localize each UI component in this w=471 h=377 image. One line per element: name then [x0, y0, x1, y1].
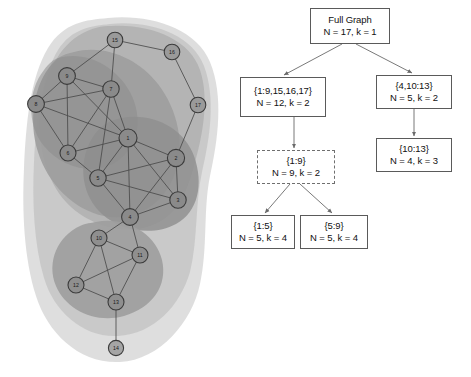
graph-node-circle [91, 230, 107, 246]
network-graph-panel: 1234567891011121314151617 [0, 0, 235, 377]
community-blobs [23, 17, 218, 362]
tree-edge-root-to-right-1 [356, 44, 412, 73]
graph-node[interactable]: 7 [103, 81, 119, 97]
graph-node[interactable]: 10 [91, 230, 107, 246]
graph-node-circle [132, 247, 148, 263]
tree-node-set-label: {1:5} [253, 220, 272, 232]
tree-node-set-label: {4,10:13} [395, 80, 432, 92]
graph-node-circle [107, 32, 123, 48]
tree-node-set-label: {1:9,15,16,17} [254, 85, 312, 97]
decomposition-tree-panel: Full GraphN = 17, k = 1{1:9,15,16,17}N =… [232, 0, 471, 377]
graph-node[interactable]: 14 [108, 340, 123, 355]
tree-node-left-1[interactable]: {1:9,15,16,17}N = 12, k = 2 [240, 77, 326, 117]
graph-node-circle [190, 97, 206, 113]
graph-node[interactable]: 15 [107, 32, 123, 48]
tree-node-left-2[interactable]: {1:9}N = 9, k = 2 [257, 150, 335, 184]
tree-edge-left-2-to-leaf-right [300, 184, 332, 213]
tree-node-set-label: {1:9} [286, 155, 305, 167]
tree-node-stats-label: N = 5, k = 4 [310, 232, 358, 244]
graph-node[interactable]: 8 [28, 96, 45, 113]
tree-node-stats-label: N = 12, k = 2 [256, 97, 309, 109]
tree-node-stats-label: N = 5, k = 2 [390, 92, 438, 104]
graph-node[interactable]: 13 [108, 294, 124, 310]
tree-node-stats-label: N = 5, k = 4 [239, 232, 287, 244]
tree-node-set-label: Full Graph [328, 14, 371, 26]
graph-node-circle [119, 129, 137, 147]
tree-node-set-label: {10:13} [399, 143, 428, 155]
graph-node[interactable]: 2 [167, 149, 184, 166]
figure-root: 1234567891011121314151617 Full GraphN = … [0, 0, 471, 377]
tree-edge-root-to-left-1 [284, 44, 342, 75]
tree-edge-left-2-to-leaf-left [265, 184, 290, 213]
graph-node-circle [103, 81, 119, 97]
tree-node-right-1[interactable]: {4,10:13}N = 5, k = 2 [376, 75, 452, 109]
graph-node-circle [108, 294, 124, 310]
graph-node[interactable]: 6 [60, 145, 76, 161]
tree-node-set-label: {5:9} [324, 220, 343, 232]
tree-node-leaf-right[interactable]: {5:9}N = 5, k = 4 [300, 215, 368, 249]
graph-node-circle [59, 68, 76, 85]
graph-node-circle [90, 170, 106, 186]
graph-node-circle [28, 96, 45, 113]
graph-node-circle [170, 192, 186, 208]
graph-node[interactable]: 16 [164, 44, 180, 60]
graph-node[interactable]: 9 [59, 68, 76, 85]
graph-node[interactable]: 17 [190, 97, 206, 113]
tree-node-stats-label: N = 9, k = 2 [272, 167, 320, 179]
graph-node-circle [122, 209, 139, 226]
tree-edges [232, 0, 471, 377]
graph-node-circle [108, 340, 123, 355]
tree-node-stats-label: N = 4, k = 3 [390, 155, 438, 167]
graph-node-circle [60, 145, 76, 161]
tree-node-right-2[interactable]: {10:13}N = 4, k = 3 [376, 138, 452, 172]
graph-node[interactable]: 3 [170, 192, 186, 208]
graph-node[interactable]: 4 [122, 209, 139, 226]
graph-node-circle [167, 149, 184, 166]
graph-node[interactable]: 5 [90, 170, 106, 186]
tree-node-leaf-left[interactable]: {1:5}N = 5, k = 4 [231, 215, 295, 249]
network-graph-svg: 1234567891011121314151617 [0, 0, 235, 377]
graph-node[interactable]: 12 [68, 277, 84, 293]
graph-node-circle [68, 277, 84, 293]
tree-node-stats-label: N = 17, k = 1 [323, 26, 376, 38]
tree-node-root[interactable]: Full GraphN = 17, k = 1 [310, 8, 390, 44]
graph-node-circle [164, 44, 180, 60]
graph-node[interactable]: 11 [132, 247, 148, 263]
graph-node[interactable]: 1 [119, 129, 137, 147]
